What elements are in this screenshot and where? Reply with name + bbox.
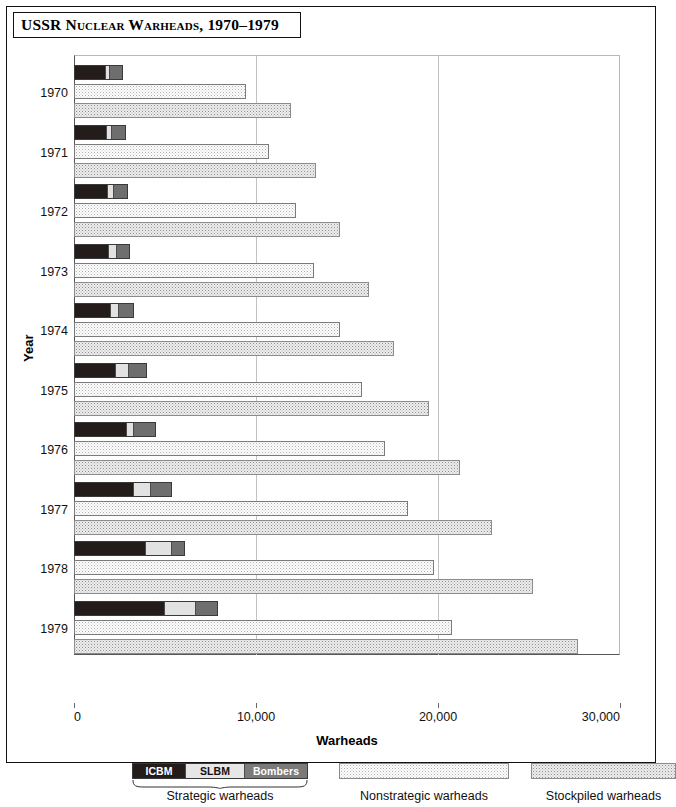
x-tick-mark: [620, 703, 621, 708]
bar-segment-slbm: [145, 542, 172, 555]
y-tick-label: 1977: [40, 504, 68, 517]
bar-segment-bombers: [110, 66, 122, 79]
x-axis-label: Warheads: [74, 733, 620, 748]
bar-stockpiled[interactable]: [74, 341, 394, 356]
bar-strategic[interactable]: [74, 482, 172, 497]
x-tick-label: 20,000: [419, 710, 457, 724]
bar-segment-slbm: [115, 364, 129, 377]
year-group: 1973: [74, 244, 620, 298]
bar-segment-slbm: [108, 245, 117, 258]
y-tick-label: 1978: [40, 563, 68, 576]
y-tick-label: 1971: [40, 147, 68, 160]
bar-nonstrategic[interactable]: [74, 382, 362, 397]
year-group: 1979: [74, 601, 620, 655]
chart-title-box: USSR Nuclear Warheads, 1970–1979: [13, 12, 301, 38]
x-tick-label: 30,000: [582, 710, 620, 724]
bar-strategic[interactable]: [74, 363, 147, 378]
bar-segment-icbm: [75, 423, 126, 436]
bar-segment-icbm: [75, 542, 145, 555]
bar-stockpiled[interactable]: [74, 282, 369, 297]
year-group: 1971: [74, 125, 620, 179]
legend-caption-strategic: Strategic warheads: [132, 789, 308, 803]
bar-strategic[interactable]: [74, 125, 126, 140]
legend-swatch-nonstrategic: [339, 763, 509, 779]
x-tick-label: 0: [74, 710, 81, 724]
year-group: 1976: [74, 422, 620, 476]
bar-stockpiled[interactable]: [74, 103, 291, 118]
legend: ICBM SLBM Bombers Strategic warheads Non…: [74, 763, 620, 807]
bar-stockpiled[interactable]: [74, 639, 578, 654]
legend-label-bombers: Bombers: [245, 764, 307, 778]
bar-nonstrategic[interactable]: [74, 84, 246, 99]
bar-strategic[interactable]: [74, 303, 134, 318]
bar-nonstrategic[interactable]: [74, 322, 340, 337]
legend-label-slbm: SLBM: [185, 764, 245, 778]
y-tick-label: 1973: [40, 266, 68, 279]
bar-nonstrategic[interactable]: [74, 501, 408, 516]
bar-nonstrategic[interactable]: [74, 560, 434, 575]
bar-nonstrategic[interactable]: [74, 263, 314, 278]
bar-stockpiled[interactable]: [74, 163, 316, 178]
x-tick-mark: [74, 703, 75, 708]
bar-segment-slbm: [126, 423, 134, 436]
legend-swatch-stockpiled: [531, 763, 676, 779]
bar-segment-slbm: [110, 304, 119, 317]
bar-strategic[interactable]: [74, 244, 130, 259]
bar-segment-icbm: [75, 483, 133, 496]
year-group: 1970: [74, 65, 620, 119]
bar-stockpiled[interactable]: [74, 460, 460, 475]
bar-nonstrategic[interactable]: [74, 441, 385, 456]
bar-nonstrategic[interactable]: [74, 620, 452, 635]
year-group: 1978: [74, 541, 620, 595]
y-tick-label: 1979: [40, 623, 68, 636]
bar-segment-bombers: [129, 364, 146, 377]
x-tick-mark: [438, 703, 439, 708]
plot-area: 1970197119721973197419751976197719781979…: [74, 55, 620, 655]
bar-stockpiled[interactable]: [74, 520, 492, 535]
bar-segment-icbm: [75, 185, 107, 198]
year-group: 1972: [74, 184, 620, 238]
bar-segment-icbm: [75, 304, 110, 317]
bar-stockpiled[interactable]: [74, 401, 429, 416]
x-tick-label: 10,000: [237, 710, 275, 724]
legend-caption-stockpiled: Stockpiled warheads: [531, 789, 676, 803]
bar-segment-bombers: [112, 126, 125, 139]
page-title: USSR Nuclear Warheads, 1970–1979: [21, 16, 279, 34]
figure-frame: USSR Nuclear Warheads, 1970–1979 Year 19…: [6, 6, 656, 763]
bar-segment-bombers: [117, 245, 129, 258]
legend-swatch-strategic: ICBM SLBM Bombers: [132, 763, 308, 779]
year-group: 1974: [74, 303, 620, 357]
bar-strategic[interactable]: [74, 65, 123, 80]
x-tick-mark: [256, 703, 257, 708]
bar-segment-icbm: [75, 126, 106, 139]
y-tick-label: 1976: [40, 444, 68, 457]
bar-strategic[interactable]: [74, 601, 218, 616]
bar-segment-icbm: [75, 364, 115, 377]
bar-segment-slbm: [133, 483, 151, 496]
bar-nonstrategic[interactable]: [74, 203, 296, 218]
y-tick-label: 1970: [40, 87, 68, 100]
year-group: 1977: [74, 482, 620, 536]
legend-group-stockpiled: Stockpiled warheads: [531, 763, 676, 803]
bar-strategic[interactable]: [74, 184, 128, 199]
bar-strategic[interactable]: [74, 541, 185, 556]
bar-segment-bombers: [172, 542, 185, 555]
bar-stockpiled[interactable]: [74, 579, 533, 594]
legend-group-nonstrategic: Nonstrategic warheads: [339, 763, 509, 803]
y-tick-label: 1974: [40, 325, 68, 338]
y-tick-label: 1972: [40, 206, 68, 219]
bar-segment-icbm: [75, 245, 108, 258]
bar-strategic[interactable]: [74, 422, 156, 437]
bar-segment-bombers: [151, 483, 171, 496]
brace-icon: [132, 780, 308, 789]
y-tick-label: 1975: [40, 385, 68, 398]
bar-segment-bombers: [196, 602, 217, 615]
year-group: 1975: [74, 363, 620, 417]
bar-segment-bombers: [134, 423, 154, 436]
y-axis-label: Year: [21, 335, 36, 362]
bar-segment-icbm: [75, 66, 105, 79]
bar-segment-bombers: [119, 304, 133, 317]
bar-nonstrategic[interactable]: [74, 144, 269, 159]
bar-stockpiled[interactable]: [74, 222, 340, 237]
bar-segment-icbm: [75, 602, 164, 615]
